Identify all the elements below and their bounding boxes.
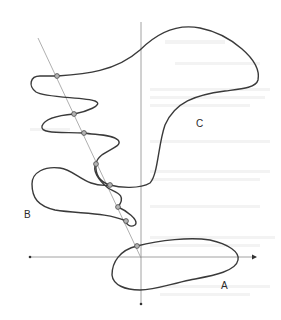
label-c: C xyxy=(196,118,203,129)
label-b: B xyxy=(24,209,31,220)
curve-b xyxy=(32,164,136,226)
intersection-point xyxy=(108,183,113,188)
horizontal-axis-arrow xyxy=(252,255,257,260)
intersection-point xyxy=(55,74,60,79)
secant-line xyxy=(38,38,141,258)
intersection-point xyxy=(124,219,129,224)
vertical-axis-arrow xyxy=(140,303,143,306)
intersection-point xyxy=(72,112,77,117)
intersection-point xyxy=(94,162,99,167)
intersection-point xyxy=(135,244,140,249)
intersection-point xyxy=(116,205,121,210)
curve-c xyxy=(31,27,258,188)
horizontal-axis-left-end xyxy=(29,256,32,259)
diagram-figure: C B A xyxy=(0,0,281,320)
label-a: A xyxy=(221,280,228,291)
intersection-point xyxy=(82,131,87,136)
